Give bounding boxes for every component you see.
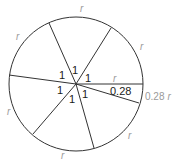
arc-label-r: r: [140, 41, 144, 52]
angle-label-1: 1: [57, 84, 63, 96]
radius-line: [33, 84, 76, 134]
arc-label-r: r: [61, 150, 65, 161]
small-arc-label: 0.28r: [145, 91, 171, 102]
radius-line: [76, 28, 111, 84]
small-arc-value: 0.28: [145, 91, 165, 102]
angle-label-1: 1: [72, 64, 78, 76]
angle-label-1: 1: [85, 72, 91, 84]
small-arc-unit: r: [167, 91, 171, 102]
circle-and-radii: [9, 17, 143, 151]
diagram-labels: r r r r r r r 1 1 1 1 1 1 0.28 0.28r: [7, 3, 171, 161]
angle-label-1: 1: [82, 88, 88, 100]
arc-label-r: r: [128, 130, 132, 141]
arc-label-r: r: [16, 31, 20, 42]
angle-label-1: 1: [69, 93, 75, 105]
radius-label-r: r: [113, 73, 117, 84]
radian-circle-diagram: r r r r r r r 1 1 1 1 1 1 0.28 0.28r: [0, 0, 178, 162]
small-angle-label: 0.28: [110, 85, 131, 97]
arc-label-r: r: [80, 3, 84, 14]
arc-label-r: r: [7, 106, 11, 117]
radius-line: [9, 75, 76, 84]
angle-label-1: 1: [59, 69, 65, 81]
